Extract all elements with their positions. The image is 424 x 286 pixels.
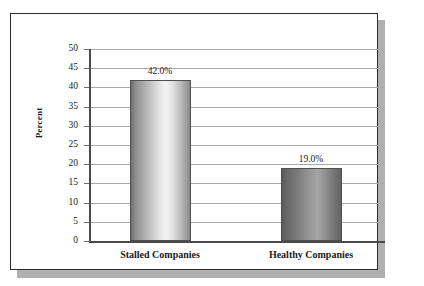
y-tick-label: 35 bbox=[52, 102, 78, 112]
chart-figure: Percent 50454035302520151050 42.0%19.0% … bbox=[0, 0, 424, 286]
y-tick-label: 10 bbox=[52, 198, 78, 208]
gridline bbox=[89, 49, 385, 50]
y-tick-label: 20 bbox=[52, 159, 78, 169]
y-axis-line bbox=[89, 49, 91, 241]
y-tick-label: 45 bbox=[52, 63, 78, 73]
x-axis-baseline bbox=[89, 241, 385, 243]
bar bbox=[281, 168, 342, 241]
bar-value-label: 19.0% bbox=[271, 155, 351, 165]
y-tick-label: 40 bbox=[52, 82, 78, 92]
plot-area: 50454035302520151050 42.0%19.0% Stalled … bbox=[79, 38, 385, 253]
axes: 50454035302520151050 42.0%19.0% Stalled … bbox=[79, 38, 385, 253]
y-axis-title: Percent bbox=[34, 83, 44, 163]
y-tick-label: 50 bbox=[52, 44, 78, 54]
x-category-label: Stalled Companies bbox=[90, 250, 230, 260]
y-tick-label: 30 bbox=[52, 121, 78, 131]
y-tick-mark bbox=[84, 241, 90, 242]
bar bbox=[130, 80, 191, 241]
y-tick-label: 15 bbox=[52, 178, 78, 188]
x-category-label: Healthy Companies bbox=[241, 250, 381, 260]
y-tick-label: 0 bbox=[52, 236, 78, 246]
y-tick-label: 5 bbox=[52, 217, 78, 227]
bar-value-label: 42.0% bbox=[120, 67, 200, 77]
y-tick-label: 25 bbox=[52, 140, 78, 150]
chart-frame: Percent 50454035302520151050 42.0%19.0% … bbox=[10, 13, 378, 270]
